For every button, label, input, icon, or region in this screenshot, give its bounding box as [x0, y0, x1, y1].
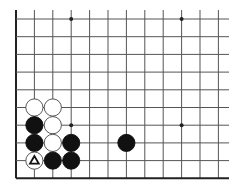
- black-stone-icon: [63, 152, 80, 169]
- stones: [26, 99, 135, 169]
- white-stone-icon: [44, 99, 61, 116]
- white-stone-icon: [44, 134, 61, 151]
- hoshi-point-icon: [180, 17, 184, 21]
- black-stone-icon: [118, 134, 135, 151]
- black-stone-icon: [44, 152, 61, 169]
- hoshi-point-icon: [180, 123, 184, 127]
- hoshi-point-icon: [69, 17, 73, 21]
- hoshi-point-icon: [69, 123, 73, 127]
- white-stone-icon: [26, 99, 43, 116]
- black-stone-icon: [63, 134, 80, 151]
- black-stone-icon: [26, 134, 43, 151]
- go-board: [0, 0, 241, 191]
- black-stone-icon: [26, 117, 43, 134]
- white-stone-icon: [44, 117, 61, 134]
